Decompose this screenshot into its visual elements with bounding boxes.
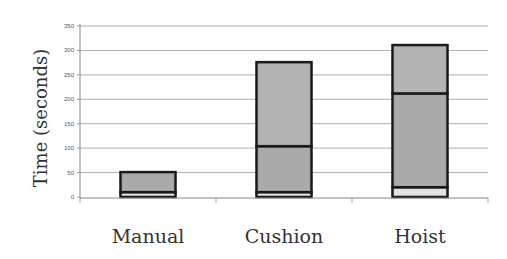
bar-segment: [393, 45, 448, 93]
bar-segment: [121, 172, 176, 192]
y-axis-ticks: 050100150200250300350: [64, 23, 80, 200]
y-tick-label: 300: [64, 47, 75, 53]
x-axis-ticks: [80, 198, 488, 203]
bar-segment: [257, 146, 312, 192]
category-labels: ManualCushionHoist: [112, 225, 446, 247]
y-tick-label: 100: [64, 145, 75, 151]
y-tick-label: 350: [64, 23, 75, 29]
y-axis-title: Time (seconds): [30, 49, 51, 187]
bar-segment: [393, 93, 448, 187]
y-tick-label: 200: [64, 96, 75, 102]
bar-cushion: [257, 62, 312, 197]
bar-segment: [393, 187, 448, 197]
bar-hoist: [393, 45, 448, 197]
category-label: Manual: [112, 225, 185, 247]
y-tick-label: 250: [64, 72, 75, 78]
bar-segment: [257, 62, 312, 146]
bars: [121, 45, 448, 197]
category-label: Cushion: [245, 225, 324, 247]
y-tick-label: 0: [71, 194, 75, 200]
y-tick-label: 50: [67, 170, 74, 176]
category-label: Hoist: [394, 225, 446, 247]
bar-manual: [121, 172, 176, 197]
stacked-bar-chart: 050100150200250300350 ManualCushionHoist…: [0, 0, 507, 259]
y-tick-label: 150: [64, 121, 75, 127]
